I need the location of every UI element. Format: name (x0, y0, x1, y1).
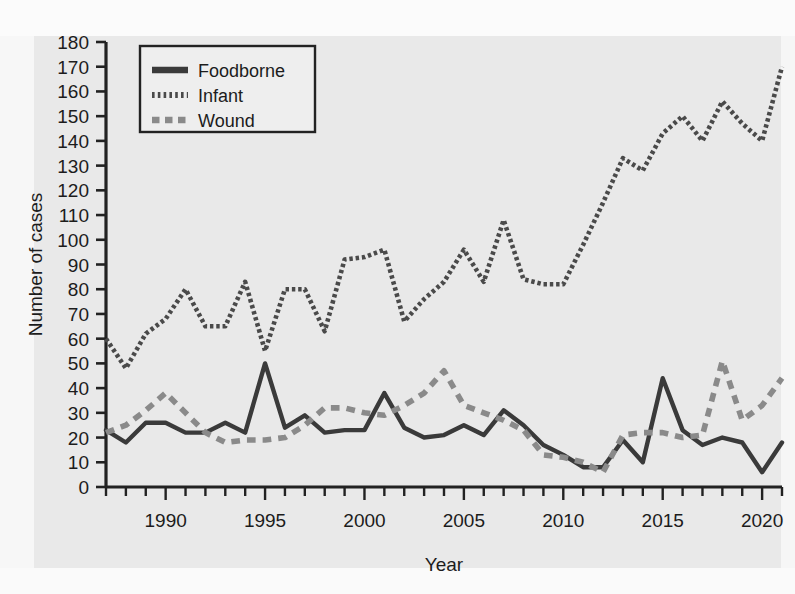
chart-legend: FoodborneInfantWound (140, 46, 315, 132)
x-axis-tick-label: 2000 (343, 510, 385, 531)
y-axis-tick-label: 30 (68, 403, 89, 424)
y-axis: 0102030405060708090100110120130140150160… (57, 32, 106, 498)
legend-label: Infant (198, 86, 243, 106)
y-axis-tick-label: 170 (57, 57, 89, 78)
series-line-foodborne (106, 363, 782, 472)
legend-label: Wound (198, 111, 255, 131)
x-axis-tick-label: 1990 (145, 510, 187, 531)
series-line-wound (106, 361, 782, 472)
chart-figure: 0102030405060708090100110120130140150160… (0, 0, 795, 594)
x-axis-tick-label: 2010 (542, 510, 584, 531)
y-axis-tick-label: 100 (57, 230, 89, 251)
y-axis-tick-label: 130 (57, 156, 89, 177)
y-axis-tick-label: 150 (57, 106, 89, 127)
y-axis-tick-label: 120 (57, 180, 89, 201)
y-axis-tick-label: 90 (68, 255, 89, 276)
legend-label: Foodborne (198, 61, 285, 81)
x-axis-tick-label: 2005 (443, 510, 485, 531)
y-axis-tick-label: 20 (68, 428, 89, 449)
y-axis-tick-label: 0 (78, 477, 89, 498)
y-axis-tick-label: 80 (68, 279, 89, 300)
line-chart-plot: 0102030405060708090100110120130140150160… (0, 0, 795, 594)
x-axis-tick-label: 1995 (244, 510, 286, 531)
x-axis-title: Year (425, 554, 464, 575)
y-axis-tick-label: 140 (57, 131, 89, 152)
y-axis-tick-label: 70 (68, 304, 89, 325)
y-axis-tick-label: 60 (68, 329, 89, 350)
x-axis-tick-label: 2015 (642, 510, 684, 531)
y-axis-tick-label: 180 (57, 32, 89, 53)
x-axis-tick-label: 2020 (741, 510, 783, 531)
y-axis-tick-label: 10 (68, 452, 89, 473)
y-axis-tick-label: 40 (68, 378, 89, 399)
y-axis-tick-label: 110 (59, 205, 89, 226)
x-axis: 1990199520002005201020152020 (106, 487, 783, 531)
y-axis-title: Number of cases (25, 193, 46, 337)
y-axis-tick-label: 50 (68, 353, 89, 374)
y-axis-tick-label: 160 (57, 81, 89, 102)
